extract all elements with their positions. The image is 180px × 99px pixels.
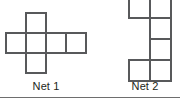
net-cell bbox=[46, 33, 66, 53]
net-cell bbox=[150, 39, 171, 60]
net-cell bbox=[150, 0, 171, 18]
net-cell bbox=[26, 33, 46, 53]
net-cell bbox=[129, 0, 150, 18]
net-cell bbox=[150, 60, 171, 81]
net-cell bbox=[26, 13, 46, 33]
bottom-divider bbox=[0, 97, 180, 98]
net-cell bbox=[26, 53, 46, 73]
net-cell bbox=[150, 18, 171, 39]
net-1-caption: Net 1 bbox=[0, 80, 92, 92]
net-cell bbox=[6, 33, 26, 53]
net-2-caption: Net 2 bbox=[110, 80, 180, 92]
net-cell bbox=[66, 33, 86, 53]
net-cell bbox=[129, 60, 150, 81]
